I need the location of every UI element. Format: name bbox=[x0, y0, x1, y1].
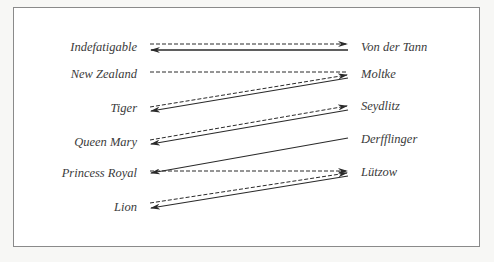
link-seydlitz-to-queen-mary bbox=[151, 110, 348, 144]
fire-links-diagram bbox=[0, 0, 494, 262]
link-lion-to-lutzow bbox=[150, 173, 347, 203]
link-queen-mary-to-seydlitz bbox=[150, 106, 347, 140]
link-lutzow-to-lion bbox=[151, 176, 348, 208]
link-tiger-to-moltke bbox=[150, 75, 347, 107]
link-derfflinger-to-princess-royal bbox=[151, 138, 348, 173]
link-moltke-to-tiger bbox=[151, 78, 348, 111]
